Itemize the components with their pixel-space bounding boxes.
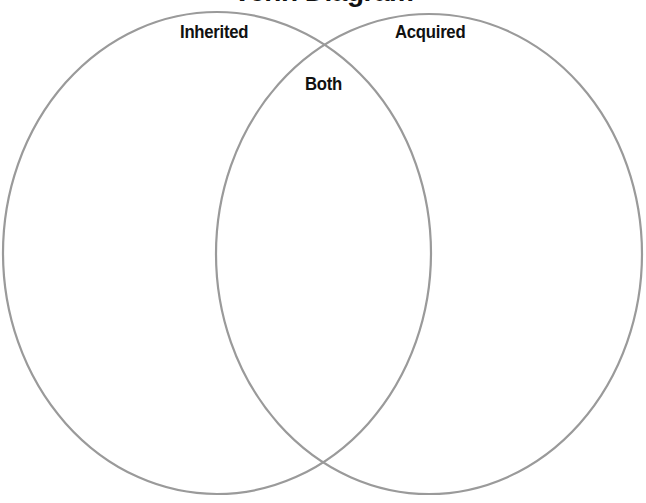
acquired-circle — [216, 14, 642, 494]
inherited-label: Inherited — [180, 22, 248, 41]
both-label: Both — [305, 74, 342, 93]
acquired-label: Acquired — [395, 22, 465, 41]
